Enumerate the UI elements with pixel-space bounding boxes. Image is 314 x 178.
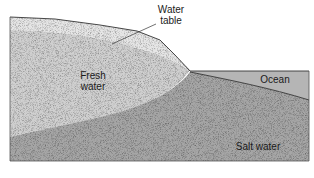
fresh-water-label-line1: Fresh [73,70,113,81]
fresh-water-label-line2: water [73,81,113,92]
water-table-label-line1: Water [146,4,196,15]
water-table-label-line2: table [146,15,196,26]
water-table-label: Water table [146,4,196,26]
fresh-water-label: Fresh water [73,70,113,92]
ocean-label: Ocean [255,74,295,85]
salt-water-label: Salt water [228,141,288,152]
